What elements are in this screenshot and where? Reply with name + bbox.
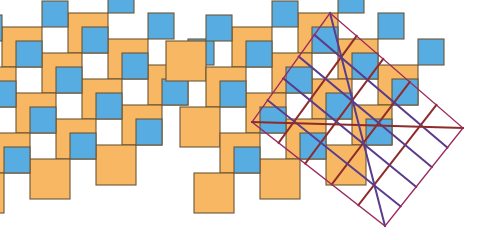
large-square: [194, 173, 234, 213]
large-square: [166, 41, 206, 81]
small-square: [96, 93, 122, 119]
small-square: [234, 147, 260, 173]
small-square: [246, 41, 272, 67]
small-square: [162, 79, 188, 105]
small-square: [352, 53, 378, 79]
large-square: [96, 145, 136, 185]
small-square: [338, 0, 364, 13]
small-square: [0, 81, 16, 107]
small-square: [56, 67, 82, 93]
small-square: [4, 147, 30, 173]
small-square: [378, 13, 404, 39]
small-square: [418, 39, 444, 65]
small-square: [286, 67, 312, 93]
small-square: [272, 1, 298, 27]
small-square: [42, 1, 68, 27]
pythagorean-tiling-figure: Pythagorean two-squares tiling with latt…: [0, 0, 480, 240]
large-square: [30, 159, 70, 199]
small-square: [136, 119, 162, 145]
large-square: [180, 107, 220, 147]
small-square: [220, 81, 246, 107]
small-square: [16, 41, 42, 67]
small-square: [108, 0, 134, 13]
small-square: [70, 133, 96, 159]
small-square: [206, 15, 232, 41]
small-square: [148, 13, 174, 39]
large-square: [0, 173, 4, 213]
small-square: [30, 107, 56, 133]
large-square: [260, 159, 300, 199]
small-square: [122, 53, 148, 79]
small-square: [0, 15, 2, 41]
small-square: [82, 27, 108, 53]
